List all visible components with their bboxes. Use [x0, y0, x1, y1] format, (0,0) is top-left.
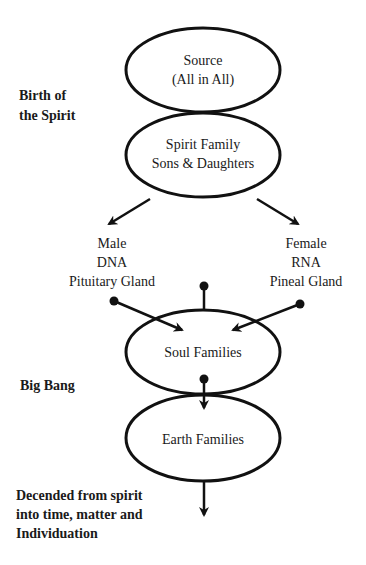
arrow-to-female [257, 199, 298, 224]
male-label: Male DNA Pituitary Gland [32, 234, 192, 291]
earth-families-line1: Earth Families [123, 430, 283, 449]
source-line2: (All in All) [123, 70, 283, 89]
big-bang-line1: Big Bang [20, 376, 75, 396]
spirit-family-label: Spirit Family Sons & Daughters [123, 135, 283, 173]
birth-line2: the Spirit [19, 106, 75, 126]
spirit-family-line1: Spirit Family [123, 135, 283, 154]
female-line1: Female [226, 234, 366, 253]
descended-line3: Individuation [16, 524, 143, 543]
descended-label: Decended from spirit into time, matter a… [16, 486, 143, 543]
source-line1: Source [123, 51, 283, 70]
spirit-family-line2: Sons & Daughters [123, 154, 283, 173]
female-line2: RNA [226, 253, 366, 272]
arrow-to-male [109, 199, 150, 224]
birth-of-spirit-label: Birth of the Spirit [19, 86, 75, 126]
female-line3: Pineal Gland [226, 272, 366, 291]
birth-line1: Birth of [19, 86, 75, 106]
soul-families-label: Soul Families [123, 343, 283, 362]
earth-families-label: Earth Families [123, 430, 283, 449]
female-label: Female RNA Pineal Gland [226, 234, 366, 291]
male-line2: DNA [32, 253, 192, 272]
soul-families-line1: Soul Families [123, 343, 283, 362]
big-bang-label: Big Bang [20, 376, 75, 396]
male-line1: Male [32, 234, 192, 253]
source-label: Source (All in All) [123, 51, 283, 89]
male-line3: Pituitary Gland [32, 272, 192, 291]
descended-line1: Decended from spirit [16, 486, 143, 505]
descended-line2: into time, matter and [16, 505, 143, 524]
arrow-male-to-soul [114, 301, 182, 330]
